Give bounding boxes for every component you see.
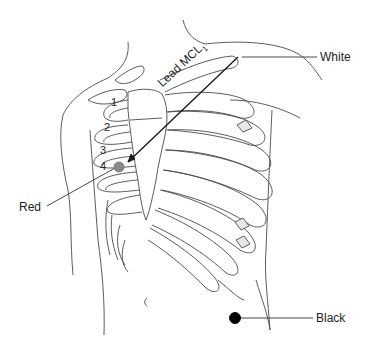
white-electrode-label: White	[320, 50, 351, 64]
black-electrode	[230, 313, 241, 324]
red-electrode	[114, 162, 124, 172]
intercostal-label-4: 4	[100, 160, 106, 172]
intercostal-label-1: 1	[111, 96, 117, 108]
intercostal-label-2: 2	[104, 121, 110, 133]
intercostal-label-3: 3	[100, 144, 106, 156]
black-electrode-label: Black	[316, 311, 345, 325]
red-electrode-label: Red	[19, 200, 41, 214]
